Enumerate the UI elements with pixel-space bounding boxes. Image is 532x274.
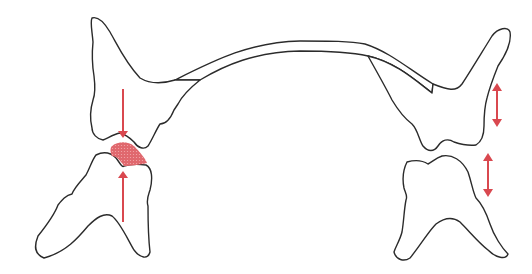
movement-arrow-upper-right bbox=[492, 83, 502, 127]
occlusion-diagram bbox=[0, 0, 532, 274]
upper-right-tooth bbox=[368, 29, 510, 151]
movement-arrow-lower-right bbox=[483, 153, 493, 197]
lower-right-tooth bbox=[394, 156, 508, 260]
lower-left-tooth bbox=[36, 153, 152, 258]
upper-left-tooth bbox=[91, 18, 200, 148]
